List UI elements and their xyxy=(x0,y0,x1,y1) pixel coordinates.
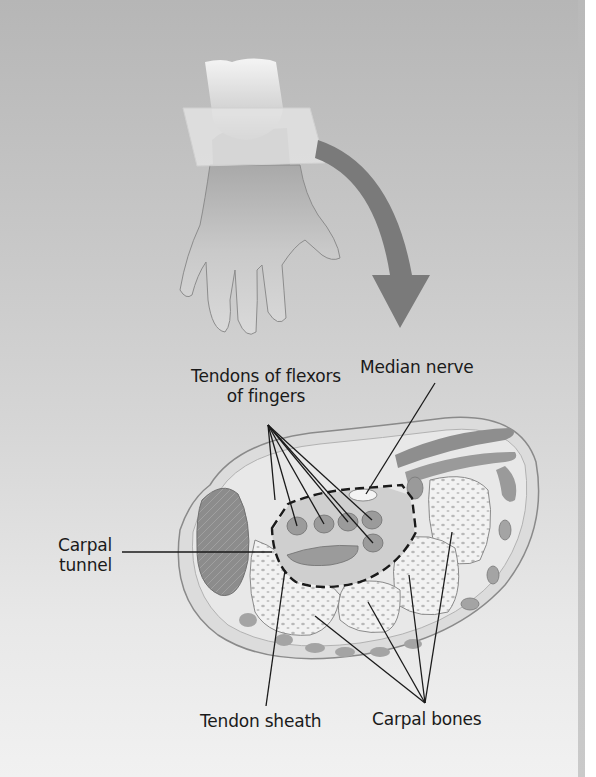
label-carpal-tunnel: Carpal tunnel xyxy=(40,535,112,575)
label-median-nerve: Median nerve xyxy=(360,357,474,377)
hand-illustration xyxy=(180,58,340,334)
wrist-cross-section xyxy=(178,417,538,658)
curved-arrow-icon xyxy=(315,140,430,328)
label-carpal-line2: tunnel xyxy=(40,555,112,575)
label-tendons-line1: Tendons of flexors xyxy=(178,366,354,386)
label-tendons-line2: of fingers xyxy=(178,386,354,406)
label-carpal-bones: Carpal bones xyxy=(372,709,482,729)
label-carpal-line1: Carpal xyxy=(40,535,112,555)
label-tendons-of-flexors: Tendons of flexors of fingers xyxy=(178,366,354,406)
label-tendon-sheath: Tendon sheath xyxy=(200,711,321,731)
